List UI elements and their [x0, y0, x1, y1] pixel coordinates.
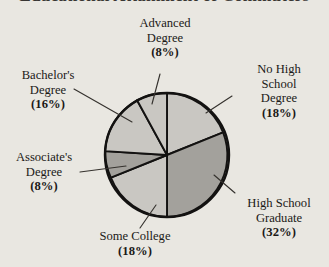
slice-label-line3: Degree [236, 91, 322, 106]
slice-percent-associates-degree: (8%) [4, 179, 84, 194]
slice-percent-no-high-school-degree: (18%) [236, 106, 322, 121]
slice-label-line1: No High [236, 62, 322, 77]
slice-percent-some-college: (18%) [79, 244, 191, 259]
slice-label-line2: School [236, 77, 322, 92]
slice-label-line2: Graduate [231, 211, 327, 226]
slice-label-line1: Some College [79, 229, 191, 244]
slice-label-line2: Degree [110, 31, 220, 46]
slice-label-line2: Degree [6, 83, 90, 98]
slice-label-line1: Bachelor's [6, 68, 90, 83]
slice-percent-advanced-degree: (8%) [110, 45, 220, 60]
slice-label-line1: High School [231, 196, 327, 211]
slice-label-advanced-degree: Advanced Degree (8%) [110, 16, 220, 60]
slice-label-line1: Advanced [110, 16, 220, 31]
slice-percent-bachelors-degree: (16%) [6, 97, 90, 112]
slice-label-bachelors-degree: Bachelor's Degree (16%) [6, 68, 90, 112]
slice-label-some-college: Some College (18%) [79, 229, 191, 258]
slice-label-associates-degree: Associate's Degree (8%) [4, 150, 84, 194]
slice-label-line2: Degree [4, 165, 84, 180]
slice-label-no-high-school-degree: No High School Degree (18%) [236, 62, 322, 120]
slice-label-line1: Associate's [4, 150, 84, 165]
leader-line-no-high-school [206, 96, 232, 113]
slice-label-high-school-graduate: High School Graduate (32%) [231, 196, 327, 240]
slice-percent-high-school-graduate: (32%) [231, 225, 327, 240]
